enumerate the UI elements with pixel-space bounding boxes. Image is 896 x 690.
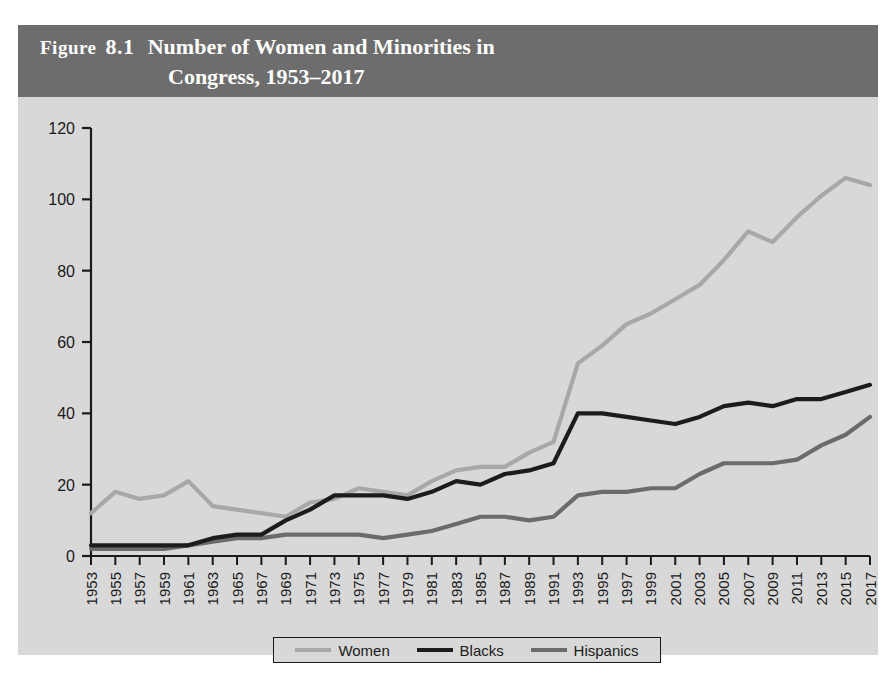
x-axis-tick-label: 1967 xyxy=(253,572,270,605)
x-axis-tick-label: 1963 xyxy=(204,572,221,605)
figure-header-line-1: Figure 8.1 Number of Women and Minoritie… xyxy=(40,32,878,62)
x-axis-tick-label: 1975 xyxy=(350,572,367,605)
x-axis: 1953195519571959196119631965196719691971… xyxy=(83,556,879,605)
x-axis-tick-label: 2017 xyxy=(862,572,879,605)
legend-item-blacks[interactable]: Blacks xyxy=(417,643,504,658)
x-axis-tick-label: 1965 xyxy=(229,572,246,605)
x-axis-tick-label: 1981 xyxy=(423,572,440,605)
y-axis-tick-label: 20 xyxy=(57,477,75,494)
x-axis-tick-label: 1983 xyxy=(448,572,465,605)
series-line-women xyxy=(91,178,870,517)
x-axis-tick-label: 1959 xyxy=(156,572,173,605)
x-axis-tick-label: 1961 xyxy=(180,572,197,605)
legend-item-women[interactable]: Women xyxy=(295,643,389,658)
x-axis-tick-label: 1971 xyxy=(302,572,319,605)
x-axis-tick-label: 1957 xyxy=(131,572,148,605)
x-axis-tick-label: 1969 xyxy=(277,572,294,605)
x-axis-tick-label: 2009 xyxy=(764,572,781,605)
chart-legend: Women Blacks Hispanics xyxy=(273,637,661,663)
x-axis-tick-label: 1987 xyxy=(496,572,513,605)
figure-header-line-2: Congress, 1953–2017 xyxy=(40,62,878,92)
x-axis-tick-label: 1977 xyxy=(375,572,392,605)
x-axis-tick-label: 1993 xyxy=(569,572,586,605)
figure-number: 8.1 xyxy=(105,34,134,59)
y-axis: 020406080100120 xyxy=(48,120,91,565)
y-axis-tick-label: 0 xyxy=(66,548,75,565)
line-chart-svg: 020406080100120 195319551957195919611963… xyxy=(18,97,878,655)
legend-swatch-blacks xyxy=(417,648,453,652)
x-axis-tick-label: 1955 xyxy=(107,572,124,605)
legend-label-women: Women xyxy=(338,643,389,658)
figure-title-line-2: Congress, 1953–2017 xyxy=(168,64,364,89)
y-axis-tick-label: 80 xyxy=(57,263,75,280)
figure-container: Figure 8.1 Number of Women and Minoritie… xyxy=(0,0,896,690)
x-axis-tick-label: 1995 xyxy=(594,572,611,605)
legend-item-hispanics[interactable]: Hispanics xyxy=(531,643,639,658)
x-axis-tick-label: 1979 xyxy=(399,572,416,605)
legend-label-hispanics: Hispanics xyxy=(574,643,639,658)
y-axis-tick-label: 60 xyxy=(57,334,75,351)
x-axis-tick-label: 1953 xyxy=(83,572,100,605)
x-axis-tick-label: 2007 xyxy=(740,572,757,605)
data-series-group xyxy=(91,178,870,549)
figure-title-line-1: Number of Women and Minorities in xyxy=(148,34,495,59)
x-axis-tick-label: 2013 xyxy=(813,572,830,605)
figure-header-bar: Figure 8.1 Number of Women and Minoritie… xyxy=(18,25,878,97)
y-axis-tick-label: 120 xyxy=(48,120,75,137)
legend-swatch-women xyxy=(295,648,331,652)
x-axis-tick-label: 2001 xyxy=(667,572,684,605)
x-axis-tick-label: 1989 xyxy=(521,572,538,605)
x-axis-tick-label: 1985 xyxy=(472,572,489,605)
figure-label: Figure xyxy=(40,37,96,58)
y-axis-tick-label: 100 xyxy=(48,191,75,208)
x-axis-tick-label: 2015 xyxy=(837,572,854,605)
x-axis-tick-label: 2003 xyxy=(691,572,708,605)
y-axis-tick-label: 40 xyxy=(57,405,75,422)
legend-swatch-hispanics xyxy=(531,648,567,652)
x-axis-tick-label: 1999 xyxy=(642,572,659,605)
x-axis-tick-label: 1997 xyxy=(618,572,635,605)
x-axis-tick-label: 1991 xyxy=(545,572,562,605)
x-axis-tick-label: 1973 xyxy=(326,572,343,605)
chart-plot-panel: 020406080100120 195319551957195919611963… xyxy=(18,97,878,655)
x-axis-tick-label: 2011 xyxy=(788,572,805,604)
legend-label-blacks: Blacks xyxy=(460,643,504,658)
x-axis-tick-label: 2005 xyxy=(715,572,732,605)
